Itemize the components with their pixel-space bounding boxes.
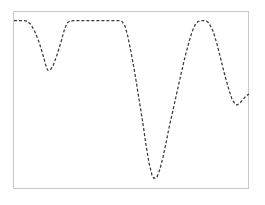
plot-background	[13, 11, 249, 189]
line-chart-plot	[0, 0, 265, 205]
chart-figure: signal	[0, 0, 265, 205]
